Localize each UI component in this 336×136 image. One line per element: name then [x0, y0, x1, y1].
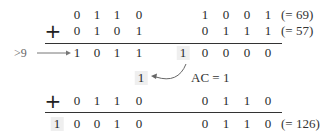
correction-high-bit-2: 1	[94, 94, 101, 108]
result-carry: 1	[51, 117, 64, 131]
result-high-bit-0: 0	[136, 117, 143, 131]
correction-high-bit-3: 0	[74, 94, 81, 108]
correction-low-bit-0: 0	[265, 94, 272, 108]
correction-low-bit-2: 1	[223, 94, 230, 108]
result-low-bit-0: 0	[265, 117, 272, 131]
correction-low-bit-1: 1	[244, 94, 251, 108]
sum-rule-2	[45, 112, 282, 113]
correction-high-bit-1: 1	[114, 94, 121, 108]
result-low-bit-1: 1	[244, 117, 251, 131]
result-low-bit-3: 0	[202, 117, 209, 131]
result-high-bit-1: 1	[114, 117, 121, 131]
plus-operator-icon: +	[45, 91, 62, 111]
result-decimal-label: (= 126)	[281, 117, 320, 131]
result-high-bit-3: 0	[74, 117, 81, 131]
correction-low-bit-3: 0	[202, 94, 209, 108]
correction-high-bit-0: 0	[136, 94, 143, 108]
auxiliary-carry-label: AC = 1	[191, 71, 229, 85]
result-low-bit-2: 1	[223, 117, 230, 131]
result-high-bit-2: 0	[94, 117, 101, 131]
